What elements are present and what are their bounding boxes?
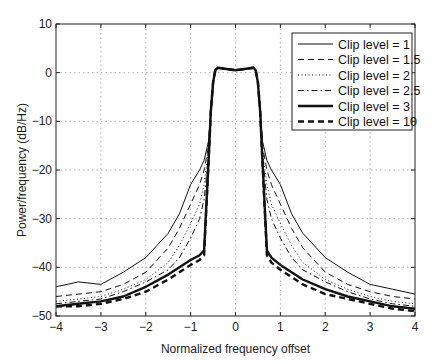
y-tick-label: −20 (32, 163, 53, 177)
y-tick-label: −10 (32, 114, 53, 128)
x-tick-label: 1 (277, 320, 284, 334)
legend-entry: Clip level = 1 (338, 38, 410, 52)
x-tick-labels: −4−3−2−101234 (49, 320, 419, 334)
y-tick-label: 0 (45, 66, 52, 80)
psd-chart: −4−3−2−101234 100−10−20−30−40−50 Normali… (0, 0, 436, 364)
legend-entry: Clip level = 10 (338, 115, 417, 129)
legend-entry: Clip level = 3 (338, 100, 410, 114)
x-tick-label: −2 (139, 320, 153, 334)
y-tick-label: −40 (32, 260, 53, 274)
x-tick-label: 0 (232, 320, 239, 334)
x-tick-label: 4 (412, 320, 419, 334)
y-tick-label: −30 (32, 212, 53, 226)
x-tick-label: 2 (322, 320, 329, 334)
legend: Clip level = 1Clip level = 1.5Clip level… (292, 33, 420, 130)
x-axis-label: Normalized frequency offset (161, 342, 311, 356)
legend-entry: Clip level = 1.5 (338, 53, 420, 67)
x-tick-label: −3 (94, 320, 108, 334)
legend-entry: Clip level = 2 (338, 69, 410, 83)
y-axis-label: Power/frequency (dB/Hz) (15, 103, 29, 237)
y-tick-label: −50 (32, 309, 53, 323)
legend-entry: Clip level = 2.5 (338, 84, 420, 98)
x-tick-label: 3 (367, 320, 374, 334)
y-tick-label: 10 (39, 17, 53, 31)
y-tick-labels: 100−10−20−30−40−50 (32, 17, 53, 323)
x-tick-label: −1 (184, 320, 198, 334)
